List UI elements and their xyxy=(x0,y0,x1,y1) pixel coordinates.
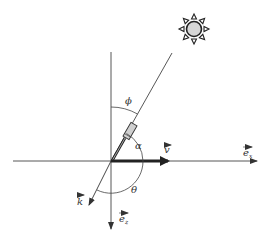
phi-label: ϕ xyxy=(125,95,132,106)
svg-text:v: v xyxy=(164,144,170,155)
k-label: k xyxy=(77,195,84,207)
ez-label: e z xyxy=(119,213,129,225)
sun-icon xyxy=(179,14,209,44)
sensor-cylinder xyxy=(123,122,137,139)
theta-label: θ xyxy=(131,184,137,195)
k-vector xyxy=(89,161,111,205)
svg-text:k: k xyxy=(77,196,83,207)
svg-text:x: x xyxy=(249,152,253,159)
v-label: v xyxy=(164,144,171,155)
alpha-label: α xyxy=(135,140,142,151)
sensor-rod-highlight xyxy=(112,138,125,161)
svg-text:z: z xyxy=(124,218,129,225)
ex-label: e x xyxy=(243,147,253,159)
sun-disc xyxy=(187,22,202,37)
diagram-canvas: ϕ α θ v e x k e z xyxy=(0,0,268,237)
phi-arc xyxy=(111,107,138,114)
